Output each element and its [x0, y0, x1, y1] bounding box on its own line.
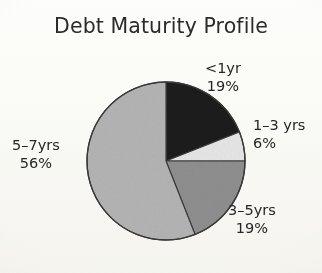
- slice-label-3to5yrs: 3–5yrs 19%: [228, 202, 276, 237]
- slice-label-lt1yr-name: <1yr: [205, 60, 241, 78]
- slice-label-lt1yr-value: 19%: [205, 78, 241, 96]
- slice-label-1to3yrs: 1–3 yrs 6%: [253, 117, 305, 152]
- slice-label-3to5yrs-value: 19%: [228, 220, 276, 238]
- slice-label-5to7yrs: 5–7yrs 56%: [12, 137, 60, 172]
- slice-label-5to7yrs-name: 5–7yrs: [12, 137, 60, 155]
- slice-label-1to3yrs-value: 6%: [253, 135, 305, 153]
- slice-label-1to3yrs-name: 1–3 yrs: [253, 117, 305, 135]
- slice-label-3to5yrs-name: 3–5yrs: [228, 202, 276, 220]
- slice-label-lt1yr: <1yr 19%: [205, 60, 241, 95]
- slice-label-5to7yrs-value: 56%: [12, 155, 60, 173]
- chart-figure: Debt Maturity Profile: [0, 0, 322, 273]
